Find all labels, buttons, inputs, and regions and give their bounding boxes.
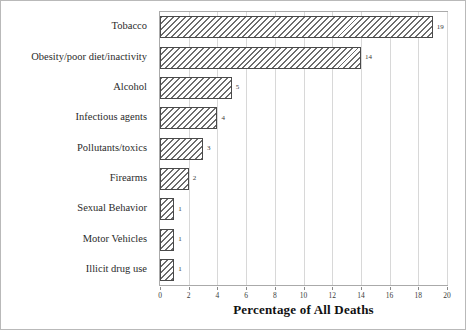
bar-value-label: 5 (236, 84, 240, 91)
category-label: Sexual Behavior (1, 197, 153, 219)
y-axis-category-labels: TobaccoObesity/poor diet/inactivityAlcoh… (1, 11, 153, 286)
tick-mark (217, 287, 218, 290)
category-label: Pollutants/toxics (1, 137, 153, 159)
category-label: Illicit drug use (1, 258, 153, 280)
tick-mark (447, 287, 448, 290)
x-tick-label: 2 (187, 291, 191, 300)
chart-figure: TobaccoObesity/poor diet/inactivityAlcoh… (0, 0, 466, 330)
bar-row: 19 (160, 16, 447, 38)
bar-row: 5 (160, 77, 447, 99)
bar-value-label: 3 (207, 145, 211, 152)
tick-mark (418, 287, 419, 290)
bar (160, 198, 174, 220)
bar (160, 259, 174, 281)
x-tick-label: 6 (244, 291, 248, 300)
tick-mark (361, 287, 362, 290)
bar (160, 138, 203, 160)
x-axis-ticks: 02468101214161820 (159, 287, 448, 301)
bar-value-label: 14 (365, 54, 372, 61)
x-tick-label: 12 (328, 291, 336, 300)
tick-mark (160, 287, 161, 290)
bar-row: 2 (160, 168, 447, 190)
category-label: Infectious agents (1, 106, 153, 128)
bar-value-label: 1 (178, 236, 182, 243)
category-label: Tobacco (1, 15, 153, 37)
bar-value-label: 1 (178, 206, 182, 213)
bar-row: 1 (160, 259, 447, 281)
bar-row: 1 (160, 198, 447, 220)
bar-value-label: 1 (178, 266, 182, 273)
bar-value-label: 2 (193, 175, 197, 182)
bar-row: 4 (160, 107, 447, 129)
tick-mark (189, 287, 190, 290)
x-tick-label: 18 (415, 291, 423, 300)
gridline (447, 12, 448, 285)
x-tick-label: 14 (357, 291, 365, 300)
x-tick-label: 4 (216, 291, 220, 300)
x-tick-label: 8 (273, 291, 277, 300)
bar (160, 229, 174, 251)
bar-value-label: 4 (221, 115, 225, 122)
bar-value-label: 19 (437, 24, 444, 31)
plot-area: 19145432111 (159, 11, 448, 286)
x-tick-label: 0 (158, 291, 162, 300)
bar-series: 19145432111 (160, 12, 447, 285)
tick-mark (332, 287, 333, 290)
x-tick-label: 10 (300, 291, 308, 300)
category-label: Motor Vehicles (1, 228, 153, 250)
bar (160, 47, 361, 69)
tick-mark (246, 287, 247, 290)
x-tick-label: 16 (386, 291, 394, 300)
category-label: Firearms (1, 167, 153, 189)
bar (160, 168, 189, 190)
tick-mark (275, 287, 276, 290)
bar (160, 77, 232, 99)
bar-row: 3 (160, 138, 447, 160)
bar-row: 14 (160, 47, 447, 69)
tick-mark (304, 287, 305, 290)
category-label: Obesity/poor diet/inactivity (1, 46, 153, 68)
x-axis-title: Percentage of All Deaths (159, 302, 448, 318)
bar (160, 107, 217, 129)
category-label: Alcohol (1, 76, 153, 98)
bar-row: 1 (160, 229, 447, 251)
tick-mark (390, 287, 391, 290)
x-tick-label: 20 (443, 291, 451, 300)
bar (160, 16, 433, 38)
